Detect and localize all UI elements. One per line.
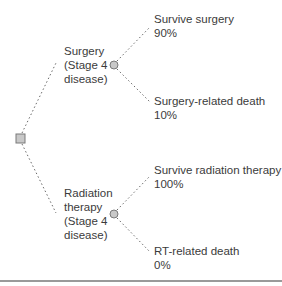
outcome-surgery-death: Surgery-related death 10% bbox=[154, 94, 265, 122]
outcome-line-surgery-death bbox=[117, 69, 150, 102]
branch-label-line: disease) bbox=[64, 228, 113, 242]
branch-line-radiation bbox=[22, 144, 56, 213]
branch-label-line: Radiation bbox=[64, 186, 113, 200]
outcome-line-rt-death bbox=[117, 218, 150, 252]
outcome-probability: 100% bbox=[154, 177, 281, 191]
outcome-rt-death: RT-related death 0% bbox=[154, 244, 239, 272]
outcome-probability: 10% bbox=[154, 108, 265, 122]
outcome-survive-surgery: Survive surgery 90% bbox=[154, 12, 234, 40]
branch-line-surgery bbox=[22, 63, 56, 133]
branch-label-line: disease) bbox=[64, 72, 107, 86]
outcome-name: Surgery-related death bbox=[154, 94, 265, 108]
chance-node-surgery bbox=[110, 61, 118, 69]
decision-tree-lines bbox=[0, 0, 282, 286]
outcome-survive-rt: Survive radiation therapy 100% bbox=[154, 163, 281, 191]
outcome-line-survive-surgery bbox=[117, 27, 150, 61]
bottom-divider bbox=[0, 280, 282, 282]
outcome-name: Survive radiation therapy bbox=[154, 163, 281, 177]
branch-label-radiation: Radiation therapy (Stage 4 disease) bbox=[64, 186, 113, 242]
outcome-name: RT-related death bbox=[154, 244, 239, 258]
outcome-probability: 90% bbox=[154, 26, 234, 40]
outcome-line-survive-rt bbox=[117, 176, 150, 210]
branch-label-line: therapy bbox=[64, 200, 113, 214]
branch-label-line: (Stage 4 bbox=[64, 214, 113, 228]
decision-node-square bbox=[16, 134, 25, 143]
branch-label-line: (Stage 4 bbox=[64, 58, 107, 72]
outcome-probability: 0% bbox=[154, 258, 239, 272]
branch-label-line: Surgery bbox=[64, 44, 107, 58]
outcome-name: Survive surgery bbox=[154, 12, 234, 26]
branch-label-surgery: Surgery (Stage 4 disease) bbox=[64, 44, 107, 86]
